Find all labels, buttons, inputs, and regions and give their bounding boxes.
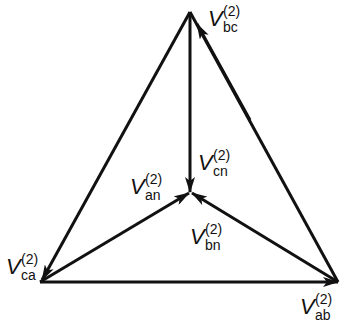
label-van: V(2)an (130, 176, 145, 198)
phasor-vca (42, 12, 190, 280)
label-vab: V(2)ab (300, 296, 315, 318)
label-vbn: V(2)bn (190, 226, 205, 248)
phasor-diagram (0, 0, 348, 329)
label-vbc: V(2)bc (208, 8, 223, 30)
label-vcn: V(2)cn (198, 152, 213, 174)
phasor-van (40, 193, 189, 282)
label-vca: V(2)ca (6, 256, 21, 278)
